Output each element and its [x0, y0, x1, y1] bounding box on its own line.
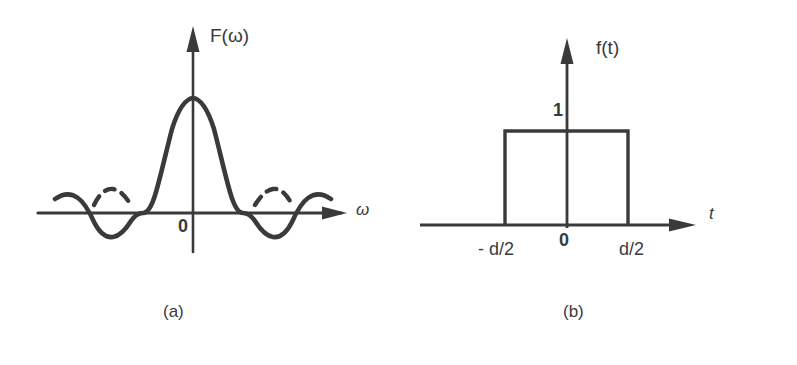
x-axis-arrowhead-a [322, 207, 347, 220]
panel-b-amplitude-label: 1 [553, 101, 563, 119]
panel-b-y-axis-label: f(t) [596, 38, 619, 57]
y-axis-arrowhead-b [561, 38, 574, 64]
panel-b-right-edge-label: d/2 [619, 240, 644, 258]
y-axis-arrowhead-a [187, 26, 200, 52]
panel-b-rectangular-pulse: f(t) t 1 - d/2 0 d/2 (b) [400, 0, 797, 365]
panel-a-origin-label: 0 [178, 217, 188, 235]
panel-a-plot [0, 0, 400, 365]
panel-b-origin-label: 0 [559, 231, 569, 249]
panel-a-fourier-transform: F(ω) ω 0 (a) [0, 0, 400, 365]
panel-a-x-axis-label: ω [356, 201, 369, 218]
sinc-envelope-dashed-left [94, 189, 131, 205]
figure-container: F(ω) ω 0 (a) f(t) t 1 - d/2 0 d/2 (b) [0, 0, 797, 365]
panel-b-caption: (b) [563, 303, 584, 320]
panel-b-left-edge-label: - d/2 [478, 240, 514, 258]
x-axis-arrowhead-b [669, 219, 696, 232]
panel-a-caption: (a) [163, 303, 184, 320]
sinc-envelope-dashed-right [255, 189, 292, 205]
panel-a-y-axis-label: F(ω) [210, 26, 249, 45]
panel-b-x-axis-label: t [709, 205, 714, 222]
